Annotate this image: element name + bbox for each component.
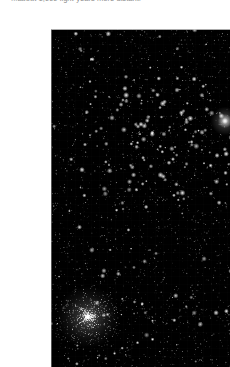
caption-strip: ...about 1,000 light-years more distant. <box>0 0 230 7</box>
photo-top-border <box>51 29 230 30</box>
starfield-photo <box>51 29 230 367</box>
photo-caption: ...about 1,000 light-years more distant. <box>11 0 141 3</box>
star-cluster-canvas <box>51 29 230 367</box>
photo-left-border <box>51 29 52 367</box>
